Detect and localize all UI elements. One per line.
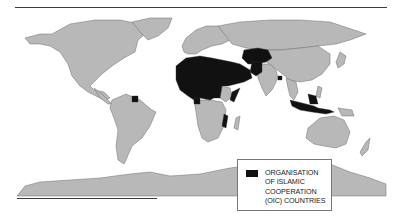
oic-bangladesh [278,76,282,80]
southern-africa [194,100,226,142]
world-map-figure: ORGANISATION OF ISLAMIC COOPERATION (OIC… [0,0,401,219]
legend: ORGANISATION OF ISLAMIC COOPERATION (OIC… [237,159,332,211]
new-zealand [360,138,370,156]
papua [338,108,354,116]
australia [306,116,350,148]
oic-swatch [246,170,258,177]
bottom-rule [17,198,157,199]
legend-line-1: ORGANISATION [265,168,325,177]
philippines [316,86,322,98]
russia [218,20,366,50]
north-america [25,20,150,100]
legend-line-4: (OIC) COUNTRIES [265,196,325,205]
madagascar [234,116,240,130]
oic-africa-middle-east [176,56,252,100]
world-map [0,0,401,219]
south-america [110,94,156,164]
oic-cameroon-gabon [194,98,200,104]
legend-line-3: COOPERATION [265,187,325,196]
japan [336,52,346,68]
oic-somalia [230,88,240,102]
oic-suriname-guyana [132,96,138,102]
legend-label: ORGANISATION OF ISLAMIC COOPERATION (OIC… [265,168,325,205]
legend-line-2: OF ISLAMIC [265,177,325,186]
